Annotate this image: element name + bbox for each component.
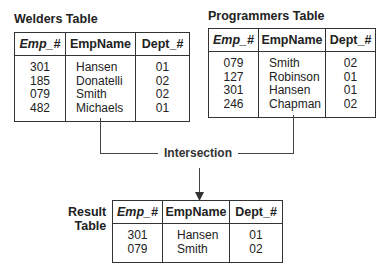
table-cell: Michaels bbox=[76, 102, 135, 116]
table-cell: 079 bbox=[113, 243, 162, 257]
column-header: EmpName bbox=[66, 33, 136, 56]
column-header: Dept_# bbox=[136, 33, 190, 56]
table-cell: 079 bbox=[209, 57, 258, 71]
column-header: Emp_# bbox=[113, 201, 163, 224]
intersection-label: Intersection bbox=[158, 146, 238, 160]
result-title-line1: Result bbox=[68, 205, 106, 219]
column-header: Dept_# bbox=[326, 29, 376, 52]
table-cell: 01 bbox=[326, 71, 375, 85]
table-cell: 01 bbox=[230, 229, 282, 243]
table-cell: 01 bbox=[326, 84, 375, 98]
table-cell: Smith bbox=[177, 243, 229, 257]
table-cell: 02 bbox=[326, 57, 375, 71]
table-cell: 01 bbox=[136, 61, 189, 75]
table-header-row: Emp_# EmpName Dept_# bbox=[113, 201, 283, 224]
welders-table: Emp_# EmpName Dept_# 301 185 079 482 Han… bbox=[14, 32, 190, 122]
table-cell: 127 bbox=[209, 71, 258, 85]
column-header: EmpName bbox=[259, 29, 326, 52]
result-table-title: Result Table bbox=[68, 205, 106, 233]
table-header-row: Emp_# EmpName Dept_# bbox=[15, 33, 190, 56]
table-body: 301 079 Hansen Smith 01 02 bbox=[113, 224, 283, 263]
column-header: EmpName bbox=[163, 201, 230, 224]
table-body: 301 185 079 482 Hansen Donatelli Smith M… bbox=[15, 56, 190, 122]
column-header: Emp_# bbox=[209, 29, 259, 52]
programmers-table-title: Programmers Table bbox=[208, 9, 324, 23]
welders-table-title: Welders Table bbox=[14, 12, 98, 26]
table-body: 079 127 301 246 Smith Robinson Hansen Ch… bbox=[209, 52, 376, 118]
table-cell: 01 bbox=[136, 102, 189, 116]
programmers-connector-line bbox=[293, 115, 294, 154]
table-cell: Hansen bbox=[177, 229, 229, 243]
table-cell: 246 bbox=[209, 98, 258, 112]
result-title-line2: Table bbox=[68, 219, 106, 233]
result-table: Emp_# EmpName Dept_# 301 079 Hansen Smit… bbox=[112, 200, 283, 263]
table-cell: 482 bbox=[15, 102, 65, 116]
table-cell: 02 bbox=[136, 75, 189, 89]
table-cell: Chapman bbox=[269, 98, 325, 112]
table-cell: Smith bbox=[76, 88, 135, 102]
table-cell: 301 bbox=[113, 229, 162, 243]
programmers-table: Emp_# EmpName Dept_# 079 127 301 246 Smi… bbox=[208, 28, 376, 118]
table-header-row: Emp_# EmpName Dept_# bbox=[209, 29, 376, 52]
arrow-shaft bbox=[199, 168, 200, 194]
table-cell: 02 bbox=[230, 243, 282, 257]
table-cell: 02 bbox=[326, 98, 375, 112]
table-cell: 301 bbox=[209, 84, 258, 98]
table-cell: Hansen bbox=[269, 84, 325, 98]
table-cell: Smith bbox=[269, 57, 325, 71]
welders-connector-line bbox=[100, 118, 101, 154]
table-cell: 02 bbox=[136, 88, 189, 102]
table-cell: 185 bbox=[15, 75, 65, 89]
column-header: Emp_# bbox=[15, 33, 66, 56]
column-header: Dept_# bbox=[230, 201, 283, 224]
table-cell: 079 bbox=[15, 88, 65, 102]
table-cell: Donatelli bbox=[76, 75, 135, 89]
table-cell: Hansen bbox=[76, 61, 135, 75]
table-cell: Robinson bbox=[269, 71, 325, 85]
table-cell: 301 bbox=[15, 61, 65, 75]
